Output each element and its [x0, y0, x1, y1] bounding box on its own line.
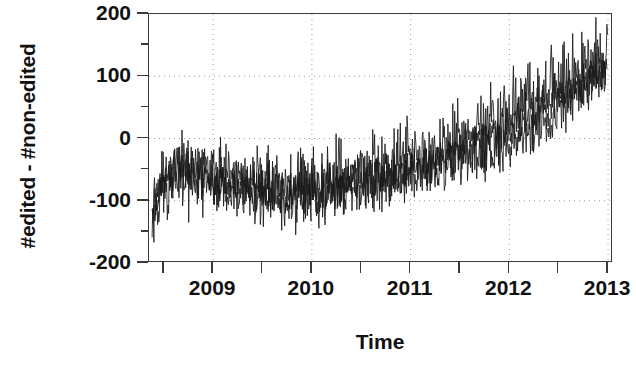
y-tick-major [137, 261, 148, 263]
x-tick-minor [557, 262, 559, 273]
x-tick-major [606, 262, 608, 273]
y-tick-minor [141, 168, 148, 170]
y-tick-label: -200 [11, 250, 131, 274]
y-tick-label: 0 [11, 126, 131, 150]
data-lines [149, 14, 613, 263]
x-tick-minor [360, 262, 362, 273]
y-tick-label: 200 [11, 1, 131, 25]
y-tick-minor [141, 43, 148, 45]
y-tick-major [137, 137, 148, 139]
x-tick-minor [162, 262, 164, 273]
y-tick-label: -100 [11, 188, 131, 212]
y-tick-label: 100 [11, 63, 131, 87]
x-tick-label: 2013 [547, 276, 636, 300]
y-tick-minor [141, 106, 148, 108]
chart-figure: #edited - #non-edited Time -200-10001002… [0, 0, 636, 368]
y-tick-major [137, 199, 148, 201]
x-tick-major [310, 262, 312, 273]
plot-area [148, 13, 612, 262]
y-tick-major [137, 12, 148, 14]
y-tick-minor [141, 230, 148, 232]
x-tick-major [508, 262, 510, 273]
x-tick-major [409, 262, 411, 273]
x-tick-major [211, 262, 213, 273]
y-tick-major [137, 75, 148, 77]
x-tick-minor [458, 262, 460, 273]
x-tick-minor [261, 262, 263, 273]
x-axis-title: Time [148, 330, 612, 354]
